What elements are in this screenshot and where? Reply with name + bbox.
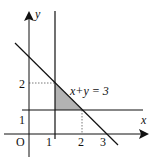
y-axis-label: y	[34, 7, 41, 21]
x-tick-2: 2	[78, 135, 84, 149]
line-equation-label: x+y = 3	[69, 84, 109, 98]
y-tick-2: 2	[19, 77, 25, 91]
coordinate-diagram: y x O 1 2 3 1 2 x+y = 3	[0, 0, 152, 165]
y-tick-1: 1	[19, 113, 25, 127]
x-tick-1: 1	[46, 135, 52, 149]
origin-label: O	[16, 135, 25, 149]
x-tick-3: 3	[100, 135, 106, 149]
x-axis-label: x	[140, 113, 147, 127]
